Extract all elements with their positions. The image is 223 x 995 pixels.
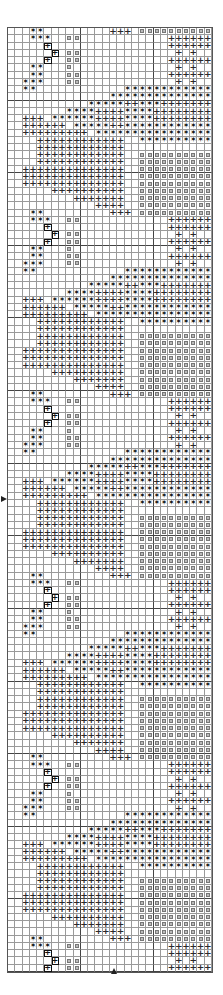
empty-cell	[15, 485, 22, 492]
dot-stitch	[197, 180, 204, 187]
empty-cell	[23, 275, 30, 282]
empty-cell	[8, 558, 15, 565]
dot-stitch	[139, 878, 146, 885]
plus-stitch	[117, 384, 124, 391]
plus-stitch	[117, 725, 124, 732]
dot-stitch	[161, 573, 168, 580]
empty-cell	[146, 689, 153, 696]
plus-stitch	[125, 573, 132, 580]
dot-stitch	[161, 369, 168, 376]
empty-cell	[117, 623, 124, 630]
empty-cell	[59, 456, 66, 463]
plus-stitch	[205, 43, 212, 50]
plus-stitch	[125, 464, 132, 471]
empty-cell	[132, 594, 139, 601]
empty-cell	[132, 406, 139, 413]
empty-cell	[146, 776, 153, 783]
empty-cell	[8, 682, 15, 689]
dot-stitch	[168, 536, 175, 543]
plus-stitch	[117, 297, 124, 304]
empty-cell	[146, 326, 153, 333]
empty-cell	[88, 246, 95, 253]
star-stitch	[125, 275, 132, 282]
dot-stitch	[168, 732, 175, 739]
empty-cell	[146, 50, 153, 57]
empty-cell	[37, 231, 44, 238]
empty-cell	[95, 943, 102, 950]
dot-stitch	[205, 377, 212, 384]
dot-stitch	[74, 761, 81, 768]
plus-stitch	[117, 870, 124, 877]
star-stitch	[103, 667, 110, 674]
plus-stitch	[190, 224, 197, 231]
dot-stitch	[190, 210, 197, 217]
plus-stitch	[37, 478, 44, 485]
empty-cell	[15, 166, 22, 173]
dot-stitch	[161, 725, 168, 732]
plus-stitch	[161, 108, 168, 115]
empty-cell	[23, 144, 30, 151]
dot-stitch	[146, 333, 153, 340]
plus-stitch	[52, 485, 59, 492]
dot-stitch	[190, 573, 197, 580]
empty-cell	[15, 703, 22, 710]
plus-stitch	[37, 122, 44, 129]
dot-stitch	[183, 515, 190, 522]
star-stitch	[30, 64, 37, 71]
star-stitch	[125, 660, 132, 667]
plus-stitch	[59, 856, 66, 863]
star-stitch	[205, 863, 212, 870]
empty-cell	[103, 623, 110, 630]
empty-cell	[23, 602, 30, 609]
empty-cell	[8, 660, 15, 667]
empty-cell	[103, 420, 110, 427]
star-stitch	[168, 674, 175, 681]
empty-cell	[132, 348, 139, 355]
empty-cell	[154, 790, 161, 797]
star-stitch	[146, 827, 153, 834]
empty-cell	[81, 275, 88, 282]
empty-cell	[125, 348, 132, 355]
dot-stitch	[190, 529, 197, 536]
dot-stitch	[139, 166, 146, 173]
dot-stitch	[74, 217, 81, 224]
empty-cell	[125, 725, 132, 732]
star-stitch	[81, 289, 88, 296]
plus-stitch	[37, 166, 44, 173]
star-stitch	[139, 86, 146, 93]
dot-stitch	[168, 348, 175, 355]
empty-cell	[44, 631, 51, 638]
empty-cell	[81, 587, 88, 594]
dot-stitch	[176, 928, 183, 935]
plus-stitch	[125, 754, 132, 761]
plus-stitch	[95, 348, 102, 355]
empty-cell	[30, 732, 37, 739]
star-stitch	[117, 101, 124, 108]
plus-stitch	[37, 841, 44, 848]
dot-stitch	[168, 529, 175, 536]
star-stitch	[81, 849, 88, 856]
boxed-plus-stitch	[44, 57, 51, 64]
dot-stitch	[176, 747, 183, 754]
empty-cell	[205, 50, 212, 57]
dot-stitch	[146, 565, 153, 572]
plus-stitch	[88, 318, 95, 325]
dot-stitch	[154, 907, 161, 914]
plus-stitch	[103, 921, 110, 928]
empty-cell	[59, 776, 66, 783]
plus-stitch	[37, 689, 44, 696]
dot-stitch	[190, 921, 197, 928]
empty-cell	[146, 406, 153, 413]
empty-cell	[161, 609, 168, 616]
empty-cell	[52, 253, 59, 260]
empty-cell	[117, 965, 124, 972]
star-stitch	[190, 856, 197, 863]
empty-cell	[132, 35, 139, 42]
dot-stitch	[146, 180, 153, 187]
empty-cell	[125, 355, 132, 362]
empty-cell	[81, 420, 88, 427]
dot-stitch	[168, 711, 175, 718]
empty-cell	[132, 761, 139, 768]
star-stitch	[168, 130, 175, 137]
empty-cell	[161, 594, 168, 601]
